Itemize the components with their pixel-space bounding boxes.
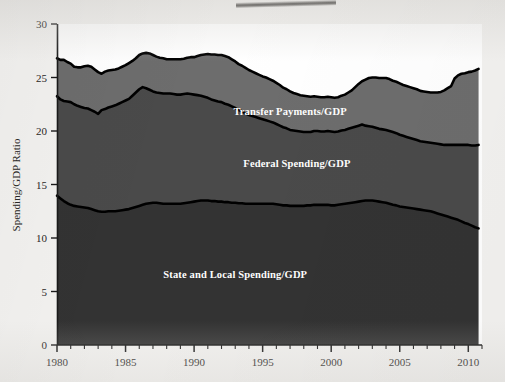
stacked-area-chart: 051015202530 198019851990199520002005201… [0,0,505,382]
x-tick-label: 1995 [252,356,275,368]
figure-container: 051015202530 198019851990199520002005201… [0,0,505,382]
stacked-bands-group [57,53,479,345]
y-tick-label: 0 [42,339,48,351]
series-label-2: Transfer Payments/GDP [233,106,347,117]
x-tick-label: 2000 [320,356,343,368]
x-tick-group: 1980198519901995200020052010 [46,345,482,368]
y-tick-label: 30 [36,18,48,30]
y-tick-label: 10 [36,232,48,244]
x-tick-label: 1990 [183,356,206,368]
y-tick-label: 5 [42,286,48,298]
x-tick-label: 2010 [457,356,480,368]
x-tick-label: 1985 [115,356,138,368]
x-tick-label: 2005 [389,356,412,368]
y-tick-label: 15 [36,179,48,191]
x-tick-label: 1980 [46,356,69,368]
series-label-0: State and Local Spending/GDP [163,269,307,280]
y-tick-label: 20 [36,125,48,137]
y-tick-label: 25 [36,72,48,84]
series-label-1: Federal Spending/GDP [243,158,351,169]
y-axis-title: Spending/GDP Ratio [10,138,22,231]
y-tick-group: 051015202530 [36,18,57,351]
